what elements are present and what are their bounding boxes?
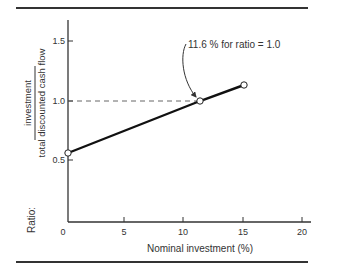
y-tick-label: 1.5 bbox=[52, 36, 65, 46]
y-tick-label: 0.5 bbox=[52, 155, 65, 165]
x-tick-label: 15 bbox=[238, 227, 248, 237]
y-tick-label: 1.0 bbox=[52, 96, 65, 106]
x-tick-label: 0 bbox=[60, 227, 65, 237]
data-point bbox=[241, 82, 247, 88]
x-tick-label: 5 bbox=[121, 227, 126, 237]
y-axis-label-denominator: total discounted cash flow bbox=[36, 48, 47, 157]
x-axis-label: Nominal investment (%) bbox=[147, 243, 253, 254]
x-tick-label: 20 bbox=[297, 227, 307, 237]
data-point bbox=[65, 150, 71, 156]
data-series-line bbox=[68, 85, 244, 153]
data-point bbox=[197, 98, 203, 104]
annotation-text: 11.6 % for ratio = 1.0 bbox=[188, 39, 281, 50]
x-tick-label: 10 bbox=[178, 227, 188, 237]
annotation-arrow bbox=[183, 44, 196, 97]
y-axis-label-numerator: investment bbox=[22, 80, 33, 126]
y-axis-label-prefix: Ratio: bbox=[26, 207, 37, 233]
chart: 1.5 1.0 0.5 0 5 10 15 20 Nominal investm… bbox=[0, 0, 340, 272]
